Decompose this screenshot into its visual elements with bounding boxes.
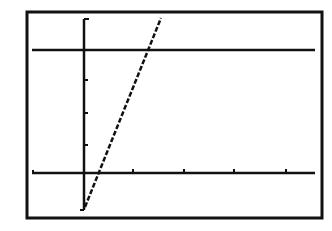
calculator-graph-screen: [0, 0, 332, 231]
screen-frame: [27, 12, 322, 218]
steep-function-line: [85, 18, 161, 207]
